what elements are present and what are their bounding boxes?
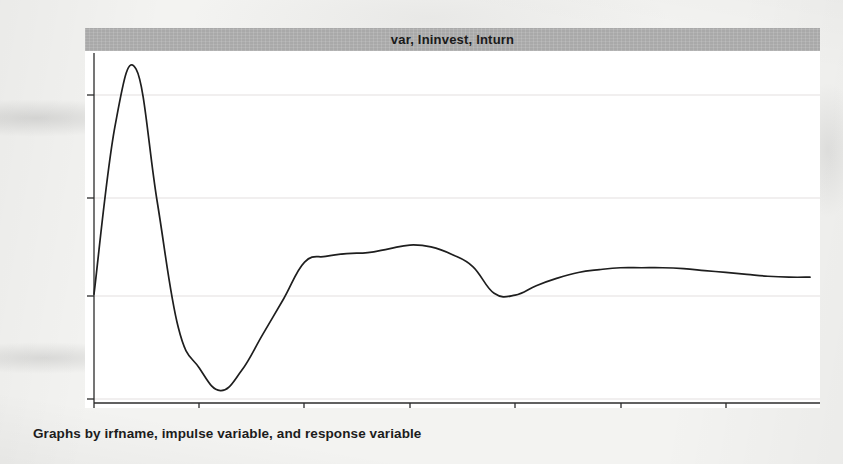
- irf-plot: .02 .01 0 -.01 0 5 10 15 20 25 30: [85, 51, 820, 408]
- graph-caption: Graphs by irfname, impulse variable, and…: [33, 426, 421, 441]
- plot-background: [85, 51, 820, 408]
- page-title: var, lninvest, lnturn: [391, 32, 514, 47]
- irf-graph-card: var, lninvest, lnturn: [85, 28, 820, 408]
- graph-title-bar: var, lninvest, lnturn: [85, 28, 820, 51]
- screenshot-root: var, lninvest, lnturn: [0, 0, 843, 464]
